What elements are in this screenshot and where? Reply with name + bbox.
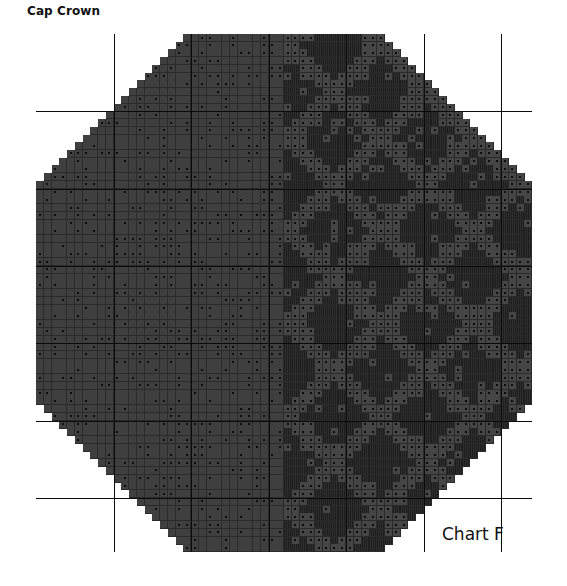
dot-icon bbox=[465, 400, 467, 402]
dot-icon bbox=[325, 253, 327, 255]
dot-icon bbox=[341, 462, 343, 464]
dot-icon bbox=[279, 145, 281, 147]
dot-icon bbox=[170, 253, 172, 255]
dot-icon bbox=[155, 508, 157, 510]
dot-icon bbox=[364, 75, 366, 77]
dot-icon bbox=[442, 261, 444, 263]
dot-icon bbox=[504, 284, 506, 286]
dot-icon bbox=[302, 392, 304, 394]
dot-icon bbox=[333, 122, 335, 124]
dot-icon bbox=[186, 462, 188, 464]
dot-icon bbox=[217, 284, 219, 286]
dot-icon bbox=[488, 400, 490, 402]
dot-icon bbox=[372, 408, 374, 410]
dot-icon bbox=[232, 299, 234, 301]
dot-icon bbox=[147, 361, 149, 363]
dot-icon bbox=[325, 91, 327, 93]
dot-icon bbox=[294, 122, 296, 124]
dot-icon bbox=[201, 261, 203, 263]
dot-icon bbox=[480, 408, 482, 410]
dot-icon bbox=[457, 222, 459, 224]
dot-icon bbox=[256, 292, 258, 294]
dot-icon bbox=[457, 431, 459, 433]
dot-icon bbox=[442, 446, 444, 448]
dot-icon bbox=[333, 469, 335, 471]
dot-icon bbox=[403, 207, 405, 209]
dot-icon bbox=[434, 377, 436, 379]
dot-icon bbox=[480, 384, 482, 386]
dot-icon bbox=[178, 261, 180, 263]
dot-icon bbox=[372, 222, 374, 224]
dot-icon bbox=[449, 207, 451, 209]
dot-icon bbox=[488, 323, 490, 325]
dot-icon bbox=[132, 261, 134, 263]
dot-icon bbox=[77, 439, 79, 441]
dot-icon bbox=[372, 516, 374, 518]
dot-icon bbox=[201, 268, 203, 270]
dot-icon bbox=[442, 454, 444, 456]
dot-icon bbox=[434, 307, 436, 309]
dot-icon bbox=[310, 330, 312, 332]
dot-icon bbox=[364, 516, 366, 518]
dot-icon bbox=[457, 392, 459, 394]
dot-icon bbox=[85, 199, 87, 201]
dot-icon bbox=[46, 276, 48, 278]
dot-icon bbox=[217, 238, 219, 240]
dot-icon bbox=[46, 392, 48, 394]
dot-icon bbox=[364, 245, 366, 247]
dot-icon bbox=[271, 176, 273, 178]
dot-icon bbox=[372, 346, 374, 348]
dot-icon bbox=[186, 338, 188, 340]
dot-icon bbox=[170, 276, 172, 278]
dot-icon bbox=[155, 400, 157, 402]
dot-icon bbox=[341, 369, 343, 371]
dot-icon bbox=[411, 168, 413, 170]
dot-icon bbox=[263, 37, 265, 39]
dot-icon bbox=[372, 500, 374, 502]
dot-icon bbox=[217, 508, 219, 510]
dot-icon bbox=[85, 183, 87, 185]
dot-icon bbox=[178, 168, 180, 170]
major-grid-line bbox=[36, 498, 532, 499]
dot-icon bbox=[39, 392, 41, 394]
dot-icon bbox=[124, 477, 126, 479]
dot-icon bbox=[271, 214, 273, 216]
dot-icon bbox=[473, 183, 475, 185]
dot-icon bbox=[380, 508, 382, 510]
dot-icon bbox=[504, 346, 506, 348]
dot-icon bbox=[318, 253, 320, 255]
dot-icon bbox=[457, 214, 459, 216]
dot-icon bbox=[310, 485, 312, 487]
dot-icon bbox=[108, 152, 110, 154]
dot-icon bbox=[248, 253, 250, 255]
dot-icon bbox=[310, 392, 312, 394]
dot-icon bbox=[310, 152, 312, 154]
dot-icon bbox=[248, 423, 250, 425]
dot-icon bbox=[108, 315, 110, 317]
dot-icon bbox=[356, 485, 358, 487]
dot-icon bbox=[70, 261, 72, 263]
dot-icon bbox=[387, 330, 389, 332]
dot-icon bbox=[426, 446, 428, 448]
dot-icon bbox=[418, 183, 420, 185]
dot-icon bbox=[77, 160, 79, 162]
dot-icon bbox=[395, 67, 397, 69]
dot-icon bbox=[248, 67, 250, 69]
dot-icon bbox=[225, 183, 227, 185]
dot-icon bbox=[325, 261, 327, 263]
dot-icon bbox=[418, 129, 420, 131]
dot-icon bbox=[318, 439, 320, 441]
dot-icon bbox=[333, 547, 335, 549]
dot-icon bbox=[372, 431, 374, 433]
dot-icon bbox=[279, 323, 281, 325]
dot-icon bbox=[310, 462, 312, 464]
dot-icon bbox=[349, 191, 351, 193]
dot-icon bbox=[263, 539, 265, 541]
dot-icon bbox=[263, 330, 265, 332]
dot-icon bbox=[155, 67, 157, 69]
dot-icon bbox=[349, 477, 351, 479]
dot-icon bbox=[225, 539, 227, 541]
dot-icon bbox=[418, 299, 420, 301]
dot-icon bbox=[418, 469, 420, 471]
dot-icon bbox=[325, 106, 327, 108]
